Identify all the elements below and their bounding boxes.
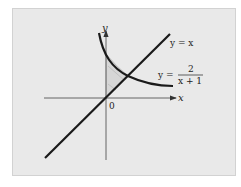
hyperbola-denominator: x + 1 <box>178 76 202 86</box>
origin-label: 0 <box>109 101 115 111</box>
hyperbola-label-prefix: y = <box>157 70 174 80</box>
x-axis-label: x <box>178 92 184 103</box>
hyperbola-numerator: 2 <box>188 64 194 74</box>
graph: y x 0 y = x y = 2 x + 1 <box>0 0 241 187</box>
y-axis-label: y <box>101 22 108 33</box>
line-y-equals-x <box>45 34 170 158</box>
line-label: y = x <box>169 38 193 48</box>
